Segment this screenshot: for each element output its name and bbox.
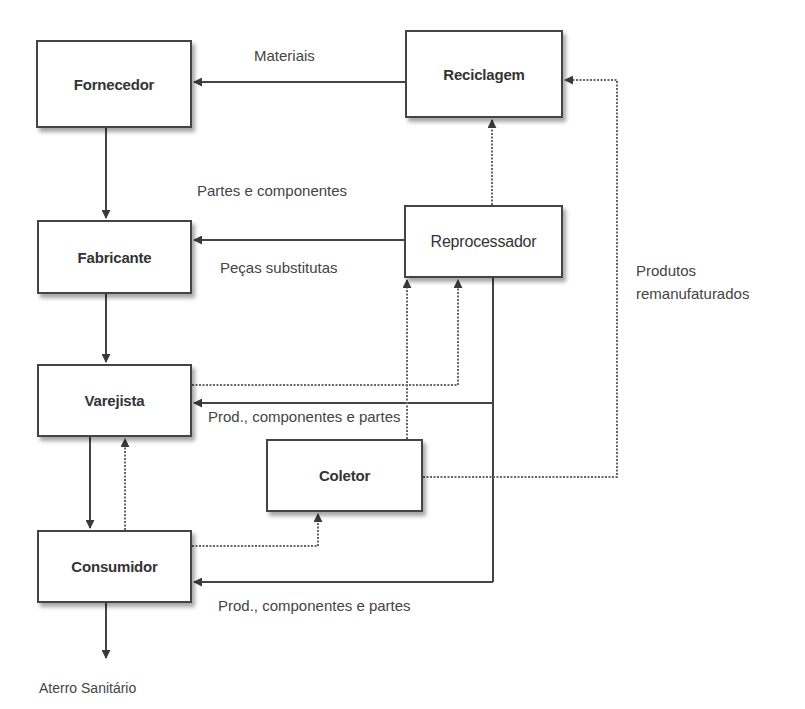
edge-coletor-reciclagem xyxy=(423,80,617,477)
node-reprocessador: Reprocessador xyxy=(404,205,563,278)
node-varejista: Varejista xyxy=(37,364,192,437)
node-coletor: Coletor xyxy=(266,439,423,512)
node-consumidor: Consumidor xyxy=(37,530,192,603)
label-partes-componentes: Partes e componentes xyxy=(197,182,347,200)
label-produtos-remanufaturados-2: remanufaturados xyxy=(636,285,749,303)
reverse-logistics-diagram: Fornecedor Fabricante Varejista Consumid… xyxy=(0,0,805,709)
label-materiais: Materiais xyxy=(254,47,315,65)
node-coletor-label: Coletor xyxy=(319,467,370,484)
node-consumidor-label: Consumidor xyxy=(71,558,157,575)
node-reprocessador-label: Reprocessador xyxy=(431,233,537,251)
node-fornecedor: Fornecedor xyxy=(36,40,192,128)
node-varejista-label: Varejista xyxy=(85,392,145,409)
node-fornecedor-label: Fornecedor xyxy=(74,76,155,93)
node-fabricante-label: Fabricante xyxy=(78,249,152,266)
label-prod-comp-partes-consumidor: Prod., componentes e partes xyxy=(218,597,411,615)
label-prod-comp-partes-varejista: Prod., componentes e partes xyxy=(208,408,401,426)
node-reciclagem-label: Reciclagem xyxy=(443,66,524,83)
label-pecas-substitutas: Peças substitutas xyxy=(220,259,338,277)
label-aterro-sanitario: Aterro Sanitário xyxy=(39,679,136,697)
edge-varejista-reprocessador xyxy=(192,280,458,385)
node-fabricante: Fabricante xyxy=(37,220,192,294)
label-produtos-remanufaturados-1: Produtos xyxy=(636,262,696,280)
edge-consumidor-coletor xyxy=(192,514,318,546)
node-reciclagem: Reciclagem xyxy=(405,30,563,118)
